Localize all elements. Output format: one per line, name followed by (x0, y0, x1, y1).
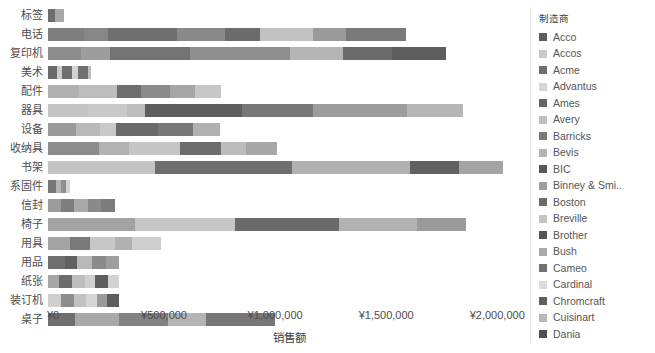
bar-segment[interactable] (48, 294, 61, 307)
bar-segment[interactable] (90, 237, 114, 250)
legend-item-cuisinart[interactable]: Cuisinart (539, 310, 655, 327)
stacked-bar[interactable] (48, 218, 466, 231)
legend-item-ames[interactable]: Ames (539, 95, 655, 112)
bar-segment[interactable] (407, 104, 464, 117)
bar-segment[interactable] (290, 47, 343, 60)
bar-segment[interactable] (410, 161, 459, 174)
bar-segment[interactable] (48, 9, 55, 22)
bar-segment[interactable] (86, 294, 97, 307)
bar-segment[interactable] (48, 275, 59, 288)
bar-segment[interactable] (108, 28, 177, 41)
bar-segment[interactable] (100, 123, 116, 136)
bar-segment[interactable] (88, 66, 91, 79)
bar-segment[interactable] (193, 123, 220, 136)
bar-segment[interactable] (62, 66, 72, 79)
stacked-bar[interactable] (48, 142, 277, 155)
bar-segment[interactable] (116, 123, 158, 136)
stacked-bar[interactable] (48, 199, 115, 212)
legend-item-avery[interactable]: Avery (539, 112, 655, 129)
stacked-bar[interactable] (48, 161, 503, 174)
bar-segment[interactable] (79, 85, 117, 98)
bar-segment[interactable] (417, 218, 466, 231)
stacked-bar[interactable] (48, 275, 119, 288)
bar-segment[interactable] (81, 47, 110, 60)
bar-segment[interactable] (246, 142, 277, 155)
bar-segment[interactable] (55, 9, 63, 22)
bar-segment[interactable] (343, 47, 392, 60)
bar-segment[interactable] (459, 161, 503, 174)
bar-segment[interactable] (292, 161, 410, 174)
bar-segment[interactable] (129, 142, 180, 155)
bar-segment[interactable] (74, 199, 88, 212)
bar-segment[interactable] (92, 256, 105, 269)
bar-segment[interactable] (48, 237, 70, 250)
bar-segment[interactable] (346, 28, 406, 41)
bar-segment[interactable] (158, 123, 194, 136)
legend-item-bic[interactable]: BIC (539, 161, 655, 178)
legend-item-cardinal[interactable]: Cardinal (539, 277, 655, 294)
bar-segment[interactable] (145, 104, 243, 117)
bar-segment[interactable] (48, 104, 88, 117)
stacked-bar[interactable] (48, 9, 64, 22)
bar-segment[interactable] (48, 161, 155, 174)
bar-segment[interactable] (48, 142, 99, 155)
bar-segment[interactable] (61, 294, 73, 307)
bar-segment[interactable] (48, 180, 56, 193)
legend-item-acco[interactable]: Acco (539, 29, 655, 46)
bar-segment[interactable] (135, 218, 235, 231)
bar-segment[interactable] (48, 85, 79, 98)
stacked-bar[interactable] (48, 47, 446, 60)
stacked-bar[interactable] (48, 123, 220, 136)
legend-item-acme[interactable]: Acme (539, 62, 655, 79)
bar-segment[interactable] (106, 256, 119, 269)
legend-item-boston[interactable]: Boston (539, 194, 655, 211)
stacked-bar[interactable] (48, 294, 119, 307)
legend-item-binney-smi[interactable]: Binney & Smi.. (539, 178, 655, 195)
bar-segment[interactable] (260, 28, 313, 41)
legend-item-bush[interactable]: Bush (539, 244, 655, 261)
bar-segment[interactable] (225, 28, 261, 41)
bar-segment[interactable] (155, 161, 293, 174)
bar-segment[interactable] (108, 275, 119, 288)
bar-segment[interactable] (180, 142, 221, 155)
bar-segment[interactable] (97, 294, 107, 307)
bar-segment[interactable] (48, 123, 76, 136)
bar-segment[interactable] (392, 47, 445, 60)
bar-segment[interactable] (132, 237, 161, 250)
bar-segment[interactable] (195, 85, 222, 98)
stacked-bar[interactable] (48, 28, 406, 41)
bar-segment[interactable] (74, 294, 86, 307)
bar-segment[interactable] (101, 199, 114, 212)
bar-segment[interactable] (48, 28, 84, 41)
bar-segment[interactable] (84, 28, 108, 41)
bar-segment[interactable] (59, 275, 72, 288)
bar-segment[interactable] (242, 104, 313, 117)
bar-segment[interactable] (70, 237, 90, 250)
bar-segment[interactable] (339, 218, 417, 231)
bar-segment[interactable] (88, 104, 127, 117)
bar-segment[interactable] (95, 275, 108, 288)
bar-segment[interactable] (48, 199, 61, 212)
bar-segment[interactable] (78, 66, 88, 79)
bar-segment[interactable] (88, 199, 101, 212)
stacked-bar[interactable] (48, 256, 119, 269)
bar-segment[interactable] (177, 28, 225, 41)
stacked-bar[interactable] (48, 66, 91, 79)
bar-segment[interactable] (190, 47, 290, 60)
bar-segment[interactable] (221, 142, 245, 155)
legend-item-barricks[interactable]: Barricks (539, 128, 655, 145)
legend-item-brother[interactable]: Brother (539, 227, 655, 244)
stacked-bar[interactable] (48, 180, 70, 193)
bar-segment[interactable] (313, 28, 345, 41)
bar-segment[interactable] (48, 218, 135, 231)
bar-segment[interactable] (77, 256, 93, 269)
bar-segment[interactable] (48, 256, 65, 269)
bar-segment[interactable] (235, 218, 339, 231)
stacked-bar[interactable] (48, 85, 221, 98)
bar-segment[interactable] (66, 180, 70, 193)
bar-segment[interactable] (141, 85, 170, 98)
bar-segment[interactable] (115, 237, 133, 250)
bar-segment[interactable] (85, 275, 95, 288)
legend-item-bevis[interactable]: Bevis (539, 145, 655, 162)
legend-item-chromcraft[interactable]: Chromcraft (539, 293, 655, 310)
